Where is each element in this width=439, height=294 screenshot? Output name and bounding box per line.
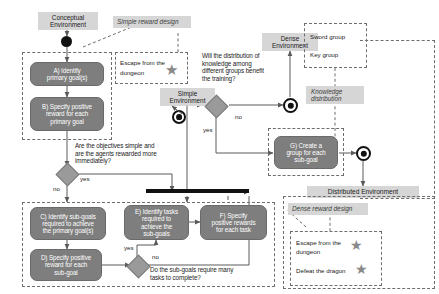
activity-d-specify-subgoal-reward[interactable]: D) Specify positive reward for each sub-… [30,249,102,281]
container-groups-outer [360,40,435,199]
diagram-canvas: Conceptual Environment Simple reward des… [0,0,439,294]
group-item-sword: Sword group [310,33,345,40]
activity-e-line2: required to [142,215,171,222]
guard-objectives-no: no [53,186,60,192]
question-objectives-line1: Are the objectives simple and [75,142,225,150]
activity-c-identify-subgoals[interactable]: C) Identify sub-goals required to achiev… [30,207,106,240]
activity-d-line2: reward for each [45,261,87,268]
activity-c-line3: the primary goal(s) [43,227,94,234]
activity-d-line3: sub-goal [54,269,77,276]
simple-note-item-1-line2: dungeon [120,69,144,76]
question-subgoals: Do the sub-goals require many tasks to c… [150,266,270,281]
activity-g-line1: G) Create a [290,142,322,149]
activity-g-line3: sub-goal [294,156,317,163]
question-knowledge-line3: different groups benefit [202,67,294,75]
guard-knowledge-yes: yes [203,127,213,133]
guard-knowledge-no: no [235,114,242,120]
question-objectives-line2: are the agents rewarded more [75,150,225,158]
question-objectives-line3: immediately? [75,157,225,165]
label-conceptual-environment: Conceptual Environment [38,12,98,30]
activity-f-line2: positive rewards [212,219,256,226]
knowledge-distribution-line1: Knowledge [311,88,342,95]
question-knowledge-line1: Will the distribution of [202,52,294,60]
initial-node-conceptual [61,36,72,47]
simple-note-item-1-star-icon: ★ [165,62,178,77]
activity-a-identify-primary-goals[interactable]: A) Identify primary goal(s) [30,62,104,86]
activity-f-line1: F) Specify [220,212,247,219]
activity-d-line1: D) Specify positive [41,254,91,261]
question-knowledge-distribution: Will the distribution of knowledge among… [202,52,294,82]
dense-env-line1: Dense [281,35,299,42]
activity-e-line3: achieve the [141,223,172,230]
question-knowledge-line4: the training? [202,75,294,83]
activity-c-line2: required to achieve [42,220,94,227]
activity-e-identify-tasks[interactable]: E) Identify tasks required to achieve th… [124,205,189,240]
container-distributed-environment-outer [283,196,435,289]
activity-f-line3: for each task [216,226,251,233]
activity-e-line4: sub-goals [143,230,169,237]
question-subgoals-line1: Do the sub-goals require many [150,266,270,274]
activity-b-line1: B) Specify positive [42,103,92,110]
knowledge-distribution-line2: distribution [311,95,341,102]
conceptual-env-line1: Conceptual [52,14,84,21]
label-knowledge-distribution: Knowledge distribution [306,86,364,104]
activity-a-line1: A) Identify [53,67,80,74]
activity-b-specify-primary-reward[interactable]: B) Specify positive reward for each prim… [30,97,104,131]
simple-note-item-1-line1: Escape from the [120,59,165,66]
final-node-dense-environment [283,98,298,113]
activity-a-line2: primary goal(s) [47,74,88,81]
question-subgoals-line2: tasks to complete? [150,274,270,282]
dense-env-line2: Environment [272,42,308,49]
simple-reward-design-text: Simple reward design [117,18,178,25]
activity-e-line1: E) Identify tasks [135,208,178,215]
question-knowledge-line2: knowledge among [202,60,294,68]
conceptual-env-line2: Environment [50,21,86,28]
activity-g-line2: group for each [286,149,325,156]
group-item-key: Key group [310,51,338,58]
activity-f-specify-task-rewards[interactable]: F) Specify positive rewards for each tas… [200,205,267,240]
simple-env-line1: Simple [178,90,198,97]
activity-b-line2: reward for each [46,110,88,117]
wire-simple-final-to-label-svg [160,100,196,120]
guard-subgoals-no: no [152,254,159,260]
activity-c-line1: C) Identify sub-goals [40,213,96,220]
activity-g-create-group[interactable]: G) Create a group for each sub-goal [274,136,338,169]
question-objectives: Are the objectives simple and are the ag… [75,142,225,165]
note-groups [304,23,367,68]
activity-b-line3: primary goal [50,118,83,125]
guard-subgoals-yes: yes [124,245,134,251]
label-simple-reward-design: Simple reward design [113,16,191,28]
join-bar [146,189,249,193]
guard-objectives-yes: yes [80,176,90,182]
